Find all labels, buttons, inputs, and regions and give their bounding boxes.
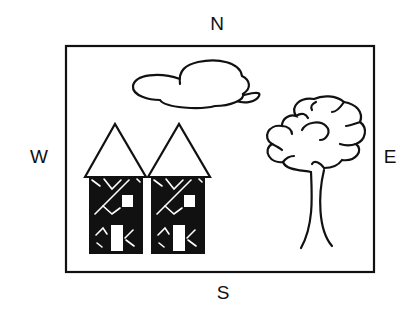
house-right-icon — [148, 124, 210, 254]
door — [173, 225, 185, 251]
map-scene — [0, 0, 412, 323]
cloud-icon — [133, 61, 259, 108]
window — [184, 195, 195, 207]
window — [122, 195, 133, 207]
house-left-icon — [85, 124, 146, 254]
tree-icon — [267, 96, 365, 248]
door — [111, 225, 123, 251]
